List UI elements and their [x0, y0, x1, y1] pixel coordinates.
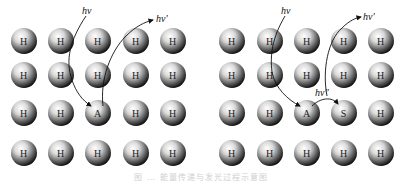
right-incoming-label: hν — [281, 5, 291, 16]
left-outgoing-label: hν' — [156, 13, 168, 24]
atom-label: H — [169, 108, 176, 119]
atom-h: H — [123, 100, 149, 126]
atom-h: H — [257, 100, 283, 126]
atom-h: H — [160, 28, 186, 54]
atom-label: H — [266, 36, 273, 47]
right-outgoing-label: hν' — [363, 11, 375, 22]
atom-label: A — [94, 108, 102, 119]
atom-h: H — [11, 140, 37, 166]
atom-label: H — [132, 36, 139, 47]
atom-h: H — [160, 100, 186, 126]
atom-label: H — [57, 108, 64, 119]
atom-label: H — [340, 148, 347, 159]
atom-label: H — [132, 148, 139, 159]
atom-h: H — [294, 140, 320, 166]
atom-label: A — [303, 108, 311, 119]
atom-h: H — [85, 28, 111, 54]
atom-label: H — [266, 148, 273, 159]
atom-label: H — [303, 148, 310, 159]
atom-s: S — [331, 100, 357, 126]
atom-a: A — [294, 100, 320, 126]
incoming-photon-arrow — [69, 16, 91, 106]
atom-h: H — [331, 140, 357, 166]
atom-h: H — [257, 28, 283, 54]
atom-h: H — [160, 62, 186, 88]
atom-label: H — [94, 36, 101, 47]
atom-h: H — [219, 28, 245, 54]
atom-label: H — [20, 36, 27, 47]
atom-h: H — [368, 100, 394, 126]
atom-h: H — [219, 140, 245, 166]
atom-h: H — [368, 140, 394, 166]
atom-h: H — [219, 100, 245, 126]
atom-h: H — [368, 62, 394, 88]
atom-label: H — [377, 108, 384, 119]
atom-h: H — [123, 28, 149, 54]
atom-label: H — [132, 108, 139, 119]
atom-h: H — [11, 100, 37, 126]
atom-h: H — [85, 62, 111, 88]
atom-label: H — [169, 148, 176, 159]
atom-h: H — [294, 28, 320, 54]
atom-h: H — [257, 62, 283, 88]
atom-h: H — [294, 62, 320, 88]
atom-label: H — [57, 36, 64, 47]
atom-label: S — [341, 108, 347, 119]
atom-h: H — [11, 62, 37, 88]
right-transfer-label: hν'' — [315, 87, 330, 98]
left-incoming-label: hν — [82, 5, 92, 16]
atom-label: H — [228, 148, 235, 159]
atom-label: H — [169, 70, 176, 81]
atom-label: H — [377, 70, 384, 81]
atom-h: H — [257, 140, 283, 166]
atom-h: H — [331, 62, 357, 88]
atom-h: H — [85, 140, 111, 166]
atom-h: H — [11, 28, 37, 54]
atom-label: H — [94, 148, 101, 159]
atom-label: H — [266, 108, 273, 119]
atom-label: H — [20, 148, 27, 159]
atom-h: H — [160, 140, 186, 166]
atom-label: H — [20, 108, 27, 119]
atom-label: H — [228, 36, 235, 47]
right-panel: HHHHHHHHHHHHASHHHHHH — [219, 28, 394, 166]
atom-label: H — [303, 70, 310, 81]
atom-label: H — [377, 36, 384, 47]
atom-h: H — [331, 28, 357, 54]
atom-label: H — [228, 108, 235, 119]
atom-h: H — [48, 100, 74, 126]
atom-h: H — [219, 62, 245, 88]
atom-label: H — [132, 70, 139, 81]
atom-label: H — [340, 70, 347, 81]
atom-label: H — [228, 70, 235, 81]
left-panel: HHHHHHHHHHHHAHHHHHHH — [11, 28, 186, 166]
atom-label: H — [57, 70, 64, 81]
energy-transfer-diagram: HHHHHHHHHHHHAHHHHHHH HHHHHHHHHHHHASHHHHH… — [0, 0, 402, 182]
atom-h: H — [368, 28, 394, 54]
atom-label: H — [303, 36, 310, 47]
atom-h: H — [48, 140, 74, 166]
atom-h: H — [123, 140, 149, 166]
atom-label: H — [377, 148, 384, 159]
atom-label: H — [57, 148, 64, 159]
atom-h: H — [123, 62, 149, 88]
figure-caption: 图 … 能量传递与发光过程示意图 — [0, 171, 402, 182]
atom-label: H — [20, 70, 27, 81]
atom-label: H — [340, 36, 347, 47]
atom-label: H — [94, 70, 101, 81]
atom-a: A — [85, 100, 111, 126]
atom-label: H — [169, 36, 176, 47]
